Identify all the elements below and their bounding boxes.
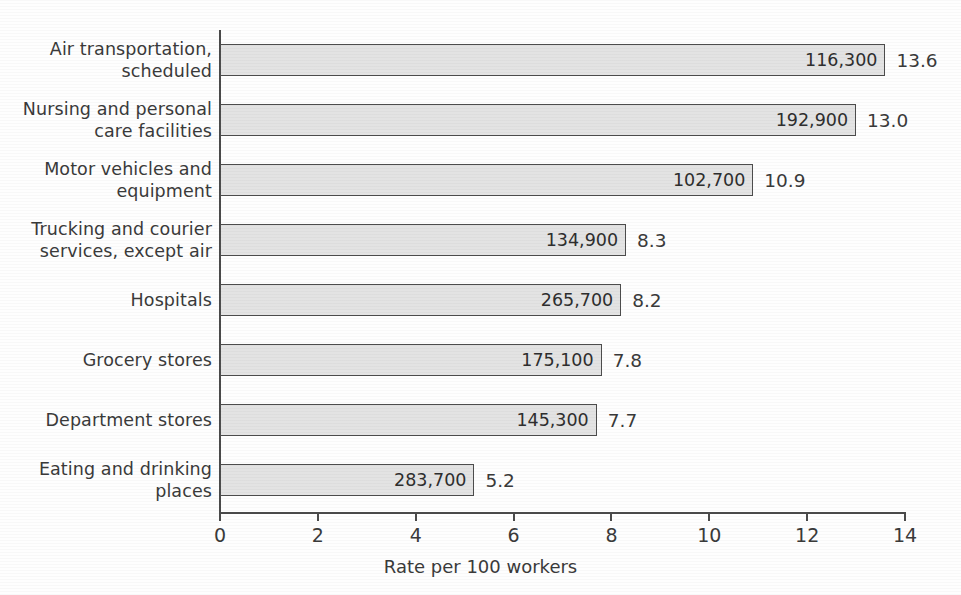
x-tick-8 <box>610 512 612 521</box>
bar-chart: 02468101214 116,30013.6192,90013.0102,70… <box>0 0 961 595</box>
category-label: Motor vehicles and equipment <box>0 158 212 202</box>
x-tick-label-14: 14 <box>875 524 935 546</box>
bar-rate-label: 8.3 <box>637 230 666 251</box>
x-tick-10 <box>708 512 710 521</box>
bar-count-label: 102,700 <box>673 170 745 190</box>
x-tick-label-8: 8 <box>581 524 641 546</box>
bar-count-label: 134,900 <box>546 230 618 250</box>
bar-rate-label: 13.0 <box>867 110 908 131</box>
bar-count-label: 192,900 <box>776 110 848 130</box>
bar: 102,700 <box>220 164 753 196</box>
bar: 116,300 <box>220 44 885 76</box>
x-tick-label-6: 6 <box>484 524 544 546</box>
x-tick-6 <box>513 512 515 521</box>
x-axis-line <box>219 512 906 514</box>
category-label: Trucking and courier services, except ai… <box>0 218 212 262</box>
bar-count-label: 283,700 <box>394 470 466 490</box>
x-tick-label-0: 0 <box>190 524 250 546</box>
category-label: Nursing and personal care facilities <box>0 98 212 142</box>
bar: 265,700 <box>220 284 621 316</box>
category-label: Grocery stores <box>0 349 212 371</box>
bar-count-label: 175,100 <box>521 350 593 370</box>
category-label: Hospitals <box>0 289 212 311</box>
bar-rate-label: 7.7 <box>608 410 637 431</box>
plot-area: 02468101214 116,30013.6192,90013.0102,70… <box>0 0 961 595</box>
bar: 134,900 <box>220 224 626 256</box>
bar-count-label: 116,300 <box>805 50 877 70</box>
y-axis-line <box>219 30 221 514</box>
bar-rate-label: 13.6 <box>896 50 937 71</box>
bar-count-label: 265,700 <box>541 290 613 310</box>
category-label: Eating and drinking places <box>0 458 212 502</box>
bar-rate-label: 7.8 <box>613 350 642 371</box>
bar: 283,700 <box>220 464 474 496</box>
x-tick-2 <box>317 512 319 521</box>
x-tick-14 <box>904 512 906 521</box>
bar-count-label: 145,300 <box>516 410 588 430</box>
x-tick-label-10: 10 <box>679 524 739 546</box>
x-tick-label-4: 4 <box>386 524 446 546</box>
x-axis-title: Rate per 100 workers <box>0 556 961 577</box>
x-tick-12 <box>806 512 808 521</box>
x-tick-label-12: 12 <box>777 524 837 546</box>
bar: 192,900 <box>220 104 856 136</box>
bar-rate-label: 10.9 <box>764 170 805 191</box>
category-label: Department stores <box>0 409 212 431</box>
bar: 175,100 <box>220 344 602 376</box>
x-tick-4 <box>415 512 417 521</box>
x-tick-0 <box>219 512 221 521</box>
bar-rate-label: 5.2 <box>485 470 514 491</box>
bar: 145,300 <box>220 404 597 436</box>
category-label: Air transportation, scheduled <box>0 38 212 82</box>
bar-rate-label: 8.2 <box>632 290 661 311</box>
x-tick-label-2: 2 <box>288 524 348 546</box>
